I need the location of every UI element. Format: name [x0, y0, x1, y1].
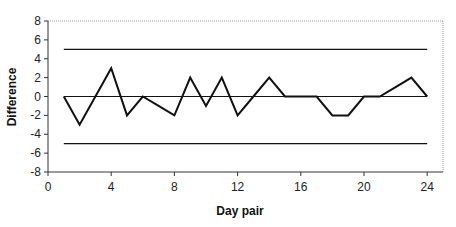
- x-tick-label: 4: [108, 180, 115, 194]
- x-tick-label: 12: [231, 180, 245, 194]
- y-tick-label: 6: [34, 33, 41, 47]
- x-tick-label: 8: [171, 180, 178, 194]
- y-axis-ticks: 86420-2-4-6-8: [30, 14, 48, 179]
- y-tick-label: 4: [34, 52, 41, 66]
- x-axis-ticks: 04812162024: [45, 172, 435, 194]
- y-tick-label: 0: [34, 90, 41, 104]
- x-tick-label: 0: [45, 180, 52, 194]
- y-tick-label: 2: [34, 71, 41, 85]
- difference-chart: 86420-2-4-6-8 04812162024 Difference Day…: [0, 0, 456, 227]
- y-tick-label: -8: [30, 165, 41, 179]
- y-axis-title: Difference: [5, 67, 19, 126]
- x-tick-label: 20: [357, 180, 371, 194]
- y-tick-label: -4: [30, 127, 41, 141]
- x-axis-title: Day pair: [216, 204, 264, 218]
- y-tick-label: -6: [30, 146, 41, 160]
- y-tick-label: -2: [30, 108, 41, 122]
- x-tick-label: 16: [294, 180, 308, 194]
- x-tick-label: 24: [421, 180, 435, 194]
- y-tick-label: 8: [34, 14, 41, 28]
